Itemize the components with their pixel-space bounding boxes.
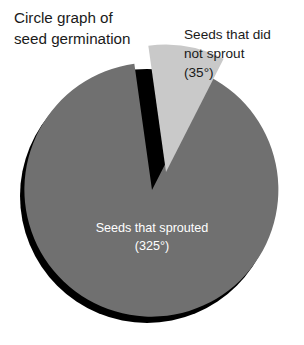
callout-label-line-1: Seeds that did [184, 27, 271, 42]
callout-label-line-2: not sprout [184, 46, 245, 61]
major-slice-value: (325°) [135, 239, 169, 253]
callout-label-value: (35°) [184, 65, 214, 80]
chart-title-line-2: seed germination [14, 30, 131, 47]
pie-chart-figure: Circle graph of seed germination Seeds t… [0, 0, 304, 345]
major-slice-label: Seeds that sprouted [96, 221, 209, 235]
circle-graph-svg: Circle graph of seed germination Seeds t… [0, 0, 304, 345]
chart-title-line-1: Circle graph of [14, 9, 114, 26]
